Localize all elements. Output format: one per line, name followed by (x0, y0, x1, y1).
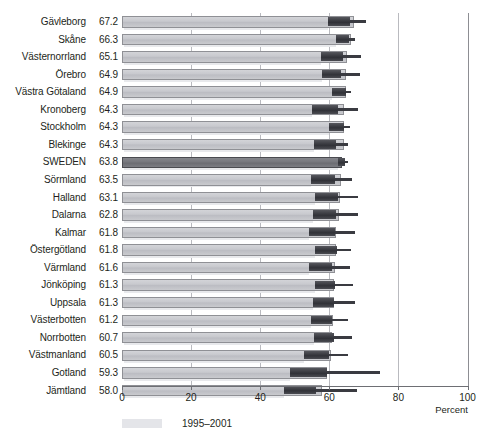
range-box (311, 175, 334, 183)
chart-row: Gotland59.3 (0, 365, 492, 383)
value-bar (122, 51, 347, 62)
value-bar (122, 262, 335, 273)
range-box (311, 316, 332, 324)
range-box (314, 333, 334, 341)
value-label: 60.5 (89, 349, 118, 361)
value-label: 63.5 (89, 174, 118, 186)
value-label: 64.9 (89, 69, 118, 81)
value-label: 67.2 (89, 16, 118, 28)
chart-row: Östergötland61.8 (0, 242, 492, 260)
value-bar (122, 244, 336, 255)
value-bar (122, 121, 344, 132)
value-label: 61.8 (89, 244, 118, 256)
x-tick (122, 386, 123, 390)
range-box (332, 88, 346, 96)
value-label: 63.1 (89, 192, 118, 204)
value-label: 61.8 (89, 227, 118, 239)
range-box (321, 52, 343, 60)
value-bar (122, 192, 340, 203)
value-label: 62.8 (89, 209, 118, 221)
value-label: 64.9 (89, 86, 118, 98)
value-label: 64.3 (89, 139, 118, 151)
range-box (309, 263, 332, 271)
range-box (309, 228, 335, 236)
value-bar (122, 174, 341, 185)
x-tick-label: 0 (102, 392, 142, 404)
category-label: Stockholm (40, 121, 86, 133)
chart-row: Västmanland60.5 (0, 347, 492, 365)
value-label: 66.3 (89, 34, 118, 46)
value-label: 64.3 (89, 104, 118, 116)
value-bar (122, 332, 332, 343)
category-label: Gotland (52, 367, 86, 379)
category-label: Västra Götaland (15, 86, 86, 98)
x-tick-label: 100 (448, 392, 488, 404)
chart-row: Värmland61.6 (0, 260, 492, 278)
x-tick-label: 20 (171, 392, 211, 404)
value-bar (122, 104, 344, 115)
range-box (304, 351, 329, 359)
chart-row: Uppsala61.3 (0, 295, 492, 313)
value-bar (122, 279, 334, 290)
chart-row: Blekinge64.3 (0, 137, 492, 155)
plot-area: Gävleborg67.2Skåne66.3Västernorrland65.1… (0, 0, 492, 442)
value-bar (122, 86, 346, 97)
category-label: Östergötland (30, 244, 86, 256)
range-box (329, 123, 344, 131)
chart-row: Västra Götaland64.9 (0, 84, 492, 102)
x-axis-title: Percent (408, 404, 468, 415)
value-label: 60.7 (89, 332, 118, 344)
category-label: Sörmland (44, 174, 86, 186)
value-label: 61.2 (89, 314, 118, 326)
category-label: Dalarna (52, 209, 86, 221)
chart-row: Skåne66.3 (0, 32, 492, 50)
value-bar (122, 34, 351, 45)
value-label: 61.3 (89, 297, 118, 309)
range-box (315, 193, 338, 201)
category-label: Värmland (44, 262, 86, 274)
chart-row: Dalarna62.8 (0, 207, 492, 225)
range-box (312, 105, 338, 113)
value-bar (122, 350, 331, 361)
x-tick (468, 386, 469, 390)
range-box (338, 158, 345, 166)
category-label: Västmanland (29, 349, 86, 361)
legend-label: 1995–2001 (182, 418, 232, 430)
value-bar (122, 139, 344, 150)
value-label: 64.3 (89, 121, 118, 133)
value-label: 63.8 (89, 156, 118, 168)
value-bar (122, 315, 333, 326)
category-label: Norrbotten (40, 332, 86, 344)
chart-row: Stockholm64.3 (0, 119, 492, 137)
range-box (315, 246, 337, 254)
legend-swatch (122, 419, 162, 428)
category-label: Uppsala (50, 297, 86, 309)
value-label: 61.3 (89, 279, 118, 291)
chart-row: Jönköping61.3 (0, 277, 492, 295)
range-box (336, 35, 349, 43)
value-label: 65.1 (89, 51, 118, 63)
category-label: Halland (53, 192, 86, 204)
chart-row: Gävleborg67.2 (0, 14, 492, 32)
value-bar (122, 69, 346, 80)
chart-row: Kronoberg64.3 (0, 102, 492, 120)
value-bar (122, 16, 354, 27)
range-box (313, 210, 336, 218)
chart-row: Kalmar61.8 (0, 225, 492, 243)
category-label: Kalmar (55, 227, 86, 239)
x-tick (260, 386, 261, 390)
category-label: SWEDEN (43, 156, 86, 168)
category-label: Jönköping (41, 279, 86, 291)
chart-row: Sörmland63.5 (0, 172, 492, 190)
value-bar (122, 209, 339, 220)
category-label: Örebro (55, 69, 86, 81)
range-box (290, 368, 327, 376)
range-box (328, 17, 350, 25)
x-tick (398, 386, 399, 390)
range-box (313, 298, 334, 306)
value-label: 59.3 (89, 367, 118, 379)
x-tick-label: 80 (378, 392, 418, 404)
value-bar (122, 297, 334, 308)
chart-row: Örebro64.9 (0, 67, 492, 85)
chart-row: Norrbotten60.7 (0, 330, 492, 348)
